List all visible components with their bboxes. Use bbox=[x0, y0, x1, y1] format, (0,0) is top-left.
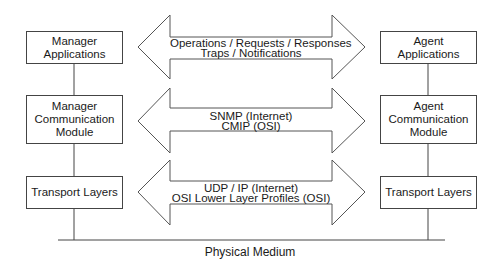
agent-transport-layers-box: Transport Layers bbox=[380, 176, 477, 209]
arrow-label-traps: Traps / Notifications bbox=[170, 48, 332, 59]
agent-communication-module-box: Agent Communication Module bbox=[380, 95, 477, 144]
agent-applications-box: Agent Applications bbox=[380, 31, 477, 64]
manager-communication-module-box: Manager Communication Module bbox=[26, 95, 123, 144]
arrow-label-osi-lower: OSI Lower Layer Profiles (OSI) bbox=[170, 193, 332, 204]
physical-medium-label: Physical Medium bbox=[180, 247, 320, 258]
manager-applications-box: Manager Applications bbox=[26, 31, 123, 64]
arrow-label-cmip: CMIP (OSI) bbox=[170, 121, 332, 132]
manager-transport-layers-box: Transport Layers bbox=[26, 176, 123, 209]
